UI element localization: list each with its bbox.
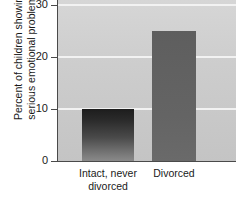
bar-divorced	[152, 31, 196, 161]
x-category-label-line: divorced	[63, 180, 153, 193]
plot-area	[58, 0, 236, 162]
y-tick-mark	[51, 161, 58, 162]
y-tick-label: 0	[8, 155, 48, 166]
y-axis-line	[57, 0, 58, 162]
y-tick-mark	[51, 109, 58, 110]
y-axis-title-line: serious emotional problems	[24, 0, 37, 132]
x-axis-line	[57, 161, 236, 162]
y-tick-mark	[51, 5, 58, 6]
gridline	[58, 56, 236, 58]
bar-chart-figure: 0102030 Percent of children showingserio…	[0, 0, 236, 200]
y-axis-title-line: Percent of children showing	[12, 0, 25, 132]
bar-intact-never-divorced	[82, 109, 134, 161]
y-tick-mark	[51, 57, 58, 58]
x-category-label: Divorced	[129, 167, 219, 180]
x-category-label-line: Divorced	[129, 167, 219, 180]
y-axis-title: Percent of children showingserious emoti…	[12, 0, 37, 132]
gridline	[58, 4, 236, 6]
